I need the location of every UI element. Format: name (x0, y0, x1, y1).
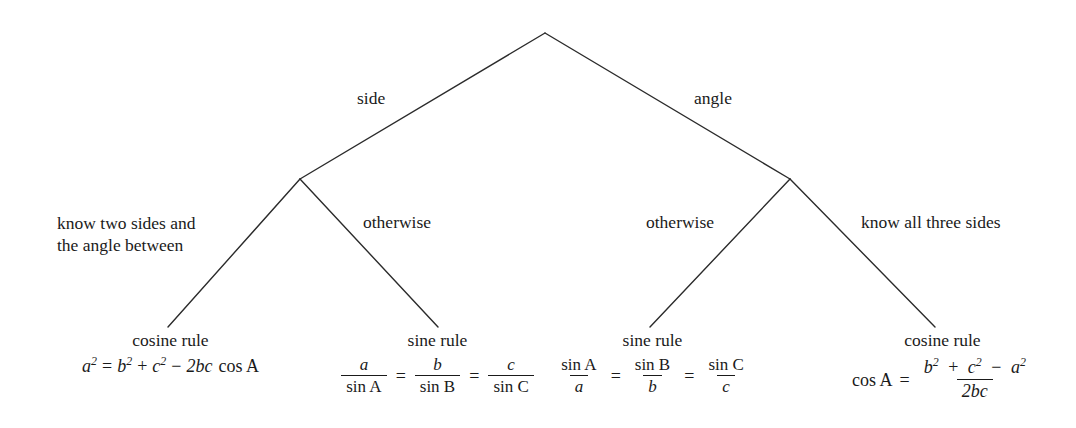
leaf-cosine-rule-left: cosine rule a2 = b2 + c2 − 2bc cos A (38, 330, 303, 377)
fraction-numerator: b2 + c2 − a2 (919, 357, 1031, 379)
formula-minus: − (171, 355, 181, 377)
edge-label-know-two-sides-line2: the angle between (57, 234, 242, 256)
fraction-denominator: 2bc (957, 379, 993, 402)
edge-left-to-leaf2 (300, 179, 438, 327)
edge-right-to-leaf3 (650, 179, 790, 327)
edge-label-otherwise-right: otherwise (646, 212, 714, 233)
formula-equals-2: = (684, 365, 694, 387)
leaf-cosine-rule-right-formula: cos A = b2 + c2 − a2 2bc (820, 357, 1065, 402)
fraction-b-over-sin-b: b sin B (415, 355, 460, 396)
fraction-a-over-sin-a: a sin A (341, 355, 386, 396)
leaf-sine-rule-sines-formula: sin A a = sin B b = sin C c (545, 355, 760, 396)
formula-plus: + (137, 355, 147, 377)
fraction-sin-c-over-c: sin C c (703, 355, 748, 396)
formula-term-c: c2 (152, 355, 166, 377)
leaf-cosine-rule-left-title: cosine rule (38, 330, 303, 351)
diagram-canvas: side angle know two sides and the angle … (0, 0, 1076, 428)
edge-root-to-left (300, 33, 545, 179)
formula-equals-2: = (469, 365, 479, 387)
leaf-sine-rule-sines-title: sine rule (545, 330, 760, 351)
edge-label-side: side (357, 88, 385, 109)
leaf-sine-rule-sides-title: sine rule (330, 330, 545, 351)
edge-label-know-two-sides-line1: know two sides and (57, 212, 242, 234)
fraction-c-over-sin-c: c sin C (488, 355, 533, 396)
edge-label-know-two-sides: know two sides and the angle between (57, 212, 242, 256)
formula-term-a: a2 (82, 355, 97, 377)
formula-term-b: b2 (117, 355, 132, 377)
formula-equals: = (102, 355, 112, 377)
leaf-cosine-rule-right: cosine rule cos A = b2 + c2 − a2 2bc (820, 330, 1065, 402)
formula-equals-1: = (396, 365, 406, 387)
edge-label-angle: angle (694, 88, 732, 109)
fraction-sin-b-over-b: sin B b (630, 355, 675, 396)
leaf-cosine-rule-right-title: cosine rule (820, 330, 1065, 351)
formula-equals-1: = (611, 365, 621, 387)
edge-label-otherwise-left: otherwise (363, 212, 431, 233)
formula-cos-a: cos A (218, 355, 259, 377)
edge-right-to-leaf4 (790, 179, 935, 327)
leaf-sine-rule-sines-over-sides: sine rule sin A a = sin B b = sin C c (545, 330, 760, 396)
fraction-cosine-rule: b2 + c2 − a2 2bc (919, 357, 1031, 402)
edge-root-to-right (545, 33, 790, 179)
leaf-sine-rule-sides-over-sines: sine rule a sin A = b sin B = c sin C (330, 330, 545, 396)
leaf-cosine-rule-left-formula: a2 = b2 + c2 − 2bc cos A (38, 355, 303, 377)
fraction-sin-a-over-a: sin A a (556, 355, 601, 396)
formula-cos-a: cos A (852, 369, 893, 391)
formula-term-2bc: 2bc (186, 355, 212, 377)
formula-equals: = (900, 369, 910, 391)
leaf-sine-rule-sides-formula: a sin A = b sin B = c sin C (330, 355, 545, 396)
edge-label-know-all-three-sides: know all three sides (861, 212, 1000, 233)
